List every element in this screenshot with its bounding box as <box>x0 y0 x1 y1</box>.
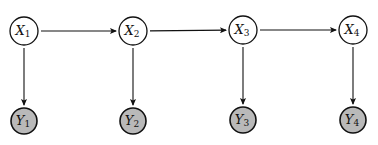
node-x2: X2 <box>119 17 147 45</box>
node-x4: X4 <box>339 16 367 44</box>
hmm-diagram: X1X2X3X4Y1Y2Y3Y4 <box>0 0 378 145</box>
node-y3: Y3 <box>230 107 256 133</box>
node-y4: Y4 <box>340 107 366 133</box>
node-y1: Y1 <box>11 108 37 134</box>
node-y2: Y2 <box>120 108 146 134</box>
nodes: X1X2X3X4Y1Y2Y3Y4 <box>10 16 367 134</box>
edges <box>24 30 353 105</box>
edge-x2-to-x3 <box>150 30 226 31</box>
node-x1: X1 <box>10 17 38 45</box>
node-x3: X3 <box>229 16 257 44</box>
